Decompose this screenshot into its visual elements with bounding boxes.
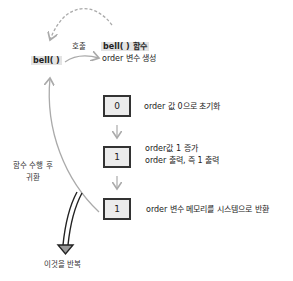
- repeat-arrow-line-a: [63, 192, 77, 245]
- step-desc-1a: order값 1 증가: [145, 143, 198, 154]
- step-box-2: 1: [103, 198, 131, 220]
- caller-label: bell( ): [31, 55, 62, 66]
- repeat-arrow-line-b: [68, 193, 82, 245]
- repeat-label: 이것을 반복: [44, 259, 81, 270]
- step-desc-1b: order 출력, 즉 1 출력: [145, 155, 219, 166]
- repeat-arrow-head: [58, 245, 73, 254]
- return-arrow: [49, 78, 99, 212]
- step-box-0: 0: [103, 95, 131, 117]
- step-box-1: 1: [103, 146, 131, 168]
- function-title: bell( ) 함수: [101, 41, 149, 52]
- step-desc-2: order 변수 메모리를 시스템으로 반환: [146, 204, 269, 215]
- call-arrow: [65, 56, 99, 62]
- dashed-loop-arrow: [50, 9, 112, 40]
- step-desc-0: order 값 0으로 초기화: [144, 101, 220, 112]
- function-subtitle: order 변수 생성: [102, 53, 156, 64]
- return-label-line2: 귀환: [8, 172, 58, 183]
- call-label: 호출: [72, 41, 86, 52]
- function-title-text: bell( ) 함수: [101, 42, 149, 51]
- return-label-line1: 함수 수행 후: [8, 160, 58, 171]
- caller-text: bell( ): [31, 56, 62, 65]
